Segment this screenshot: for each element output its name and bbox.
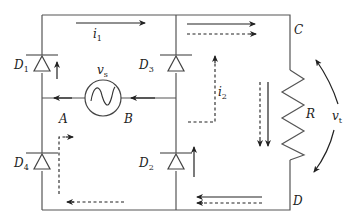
diode-d3-label: D3 (138, 58, 154, 74)
circuit-wires (42, 15, 290, 210)
diode-d4-label: D4 (13, 156, 29, 172)
i1-label: i1 (93, 27, 102, 43)
ac-source: vs (85, 63, 121, 116)
vt-up-arrow (316, 60, 338, 104)
node-b-label: B (123, 112, 133, 126)
source-label: vs (97, 63, 108, 79)
diode-d1-label: D1 (13, 58, 29, 74)
i2-d4-riser-path (59, 137, 67, 194)
i2-label: i2 (218, 85, 227, 101)
diode-d2-label: D2 (138, 156, 154, 172)
output-voltage-label: vt (332, 109, 343, 125)
vt-down-arrow (314, 130, 334, 172)
node-c-label: C (294, 23, 303, 37)
i2-riser-path (188, 60, 215, 122)
diode-d1: D1 (13, 55, 58, 74)
bridge-rectifier-diagram: D1 D3 D4 D2 vs A B C D R (0, 0, 352, 224)
node-a-label: A (58, 112, 68, 126)
diode-d2: D2 (138, 153, 192, 172)
output-voltage-indicator: vt (314, 60, 343, 172)
diode-d3: D3 (138, 55, 192, 74)
current-i2: i2 (59, 34, 262, 203)
diode-d4: D4 (13, 153, 58, 172)
resistor-r: R (282, 70, 315, 160)
resistor-label: R (305, 107, 315, 121)
node-d-label: D (292, 194, 303, 208)
